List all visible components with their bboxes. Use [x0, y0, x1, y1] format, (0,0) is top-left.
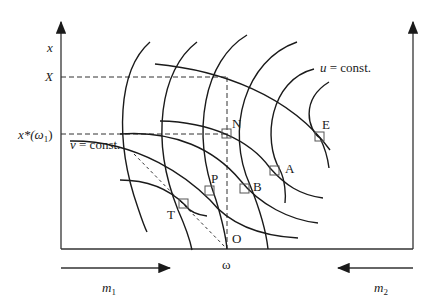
u-indifference-curves: [123, 35, 329, 250]
point-N-label: N: [232, 116, 242, 131]
u-curve-1: [123, 42, 150, 232]
point-E-label: E: [322, 117, 330, 132]
point-P-label: P: [211, 171, 218, 186]
point-A-label: A: [285, 161, 295, 176]
u-curve-4: [239, 42, 297, 249]
m1-label: m1: [102, 280, 116, 297]
omega-label: ω: [222, 257, 231, 272]
xstar-tick-label: x*(ω1): [17, 127, 53, 144]
X-tick-label: X: [44, 69, 54, 84]
m2-label: m2: [374, 280, 388, 297]
point-B-label: B: [253, 179, 262, 194]
x-axis-label: x: [46, 40, 53, 55]
v-const-label: v = const.: [70, 137, 120, 152]
u-const-label: u = const.: [320, 60, 371, 75]
point-T-label: T: [167, 207, 175, 222]
box-frame: [61, 22, 413, 249]
tangency-points: [179, 129, 324, 208]
edgeworth-box-diagram: N E A B P T O u = const. v = const. x X …: [0, 0, 435, 308]
u-curve-5: [271, 69, 314, 203]
point-O-label: O: [232, 231, 241, 246]
